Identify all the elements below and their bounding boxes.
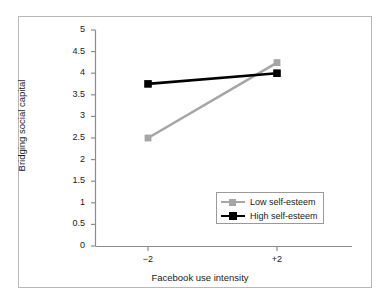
y-tick-label-4: 4 <box>59 67 85 77</box>
legend-item-high-self-esteem: High self-esteem <box>221 209 318 223</box>
data-point-high-self-esteem-x-minus2 <box>144 80 152 88</box>
x-tick-marks <box>148 247 277 252</box>
y-tick-label-2: 2 <box>59 154 85 164</box>
data-point-high-self-esteem-x-plus2 <box>273 69 281 77</box>
legend-label-low-self-esteem: Low self-esteem <box>250 197 316 207</box>
legend-item-low-self-esteem: Low self-esteem <box>221 195 316 209</box>
y-tick-label-1.5: 1.5 <box>59 175 85 185</box>
y-axis-title: Bridging social capital <box>16 41 27 211</box>
y-tick-label-2.5: 2.5 <box>59 132 85 142</box>
y-tick-label-3.5: 3.5 <box>59 89 85 99</box>
x-axis-title: Facebook use intensity <box>95 272 305 283</box>
y-tick-label-4.5: 4.5 <box>59 46 85 56</box>
y-tick-label-5: 5 <box>59 24 85 34</box>
legend-label-high-self-esteem: High self-esteem <box>250 211 318 221</box>
data-point-low-self-esteem-x-plus2 <box>274 59 281 66</box>
x-tick-label-plus2: +2 <box>257 254 297 264</box>
chart-canvas: 5 4.5 4 3.5 3 2.5 2 1.5 1 0.5 0 −2 +2 Br… <box>0 0 391 303</box>
y-tick-marks <box>91 30 96 246</box>
y-tick-label-3: 3 <box>59 110 85 120</box>
y-tick-label-0: 0 <box>59 240 85 250</box>
chart-legend: Low self-esteem High self-esteem <box>216 192 324 224</box>
series-line-high-self-esteem <box>148 73 277 84</box>
x-tick-label-minus2: −2 <box>128 254 168 264</box>
data-point-low-self-esteem-x-minus2 <box>145 135 152 142</box>
y-tick-label-1: 1 <box>59 197 85 207</box>
y-tick-label-0.5: 0.5 <box>59 218 85 228</box>
